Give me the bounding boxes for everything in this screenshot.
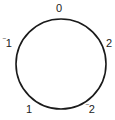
sign-mark: ‾ [86,103,89,112]
label-bottom-left: 1 [26,104,32,116]
circle-graphic [0,0,115,120]
label-value: 1 [6,37,12,49]
label-top: 0 [56,3,62,15]
label-left: ‾1 [3,38,12,50]
label-bottom-right: ‾2 [86,104,95,116]
label-right: 2 [106,38,112,50]
label-value: 0 [56,2,62,14]
sign-mark: ‾ [3,37,6,46]
cycle-circle [16,19,106,109]
label-value: 1 [26,103,32,115]
label-value: 2 [106,37,112,49]
cycle-diagram: 0 2 ‾2 1 ‾1 [0,0,115,120]
label-value: 2 [89,103,95,115]
